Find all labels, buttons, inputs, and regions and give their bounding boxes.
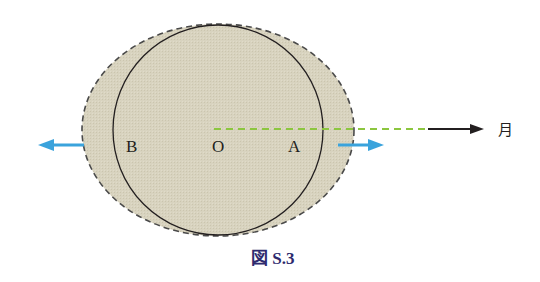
black-right-arrow-icon <box>428 124 484 134</box>
label-o: O <box>212 137 224 156</box>
tidal-bulge-diagram: B O A 月 図 S.3 <box>0 0 540 282</box>
label-b: B <box>126 137 137 156</box>
figure-caption: 図 S.3 <box>251 249 294 268</box>
label-a: A <box>288 137 301 156</box>
label-moon: 月 <box>498 121 513 139</box>
blue-left-arrow-icon <box>38 139 84 151</box>
